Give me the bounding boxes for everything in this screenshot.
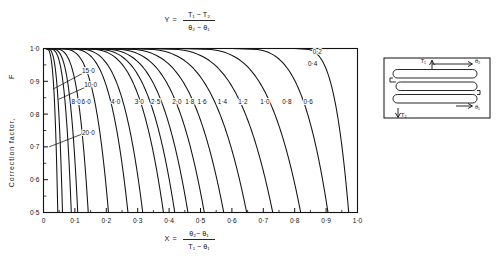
- lmtd-correction-factor-chart: 00·10·20·30·40·50·60·70·80·91·00·50·60·7…: [0, 0, 496, 262]
- title-formula-numerator: T₁ − T₂: [188, 10, 210, 19]
- inset-heat-exchanger: T₁T₂θ₂θ₁: [384, 58, 490, 118]
- hot-outlet-label: T₂: [401, 112, 407, 118]
- hot-inlet-label: T₁: [421, 58, 426, 64]
- y-tick-label: 0·5: [30, 209, 40, 216]
- curve-label: 0·2: [313, 48, 323, 55]
- x-tick-label: 0·8: [290, 217, 300, 224]
- x-tick-label: 0·3: [133, 217, 143, 224]
- leader-line: [53, 71, 86, 89]
- y-tick-label: 0·9: [30, 78, 40, 85]
- curve-label: 2·5: [151, 98, 161, 105]
- curve-label: 1·2: [238, 98, 248, 105]
- curve: [232, 49, 328, 213]
- cold-inlet-label: θ₁: [475, 104, 480, 110]
- curve-label: 2·0: [172, 98, 182, 105]
- x-tick-label: 0·7: [259, 217, 269, 224]
- x-tick-label: 0·9: [321, 217, 331, 224]
- tube-pass: [393, 95, 477, 104]
- curve-label: 1·8: [185, 98, 195, 105]
- y-tick-label: 1·0: [30, 45, 40, 52]
- curve-label: 15·0: [82, 67, 95, 74]
- title-formula: Y=T₁ − T₂θ₂ − θ₁: [165, 10, 215, 32]
- y-axis-symbol: F: [8, 74, 15, 79]
- x-tick-label: 0·6: [227, 217, 237, 224]
- tube-bundle: [390, 70, 480, 104]
- curve: [104, 49, 224, 213]
- y-tick-label: 0·8: [30, 111, 40, 118]
- title-formula-equals: =: [172, 15, 176, 24]
- curve-label: 0·4: [308, 60, 318, 67]
- x-axis-formula-equals: =: [172, 234, 176, 243]
- x-tick-label: 1·0: [353, 217, 363, 224]
- y-axis-title: Correction factor,F: [8, 74, 15, 187]
- curve-label: 0·8: [282, 98, 292, 105]
- x-tick-labels: 00·10·20·30·40·50·60·70·80·91·0: [42, 217, 363, 224]
- x-tick-label: 0·2: [102, 217, 112, 224]
- x-tick-label: 0: [42, 217, 46, 224]
- curve-label: 20·0: [82, 129, 95, 136]
- tube-pass: [393, 70, 477, 79]
- title-formula-denominator: θ₂ − θ₁: [188, 23, 210, 32]
- x-axis-formula-denominator: T₁ − θ₁: [188, 242, 210, 251]
- curve-label: 3·0: [135, 98, 145, 105]
- figure-root: 00·10·20·30·40·50·60·70·80·91·00·50·60·7…: [0, 0, 496, 262]
- curve-label: 6·0: [82, 98, 92, 105]
- curve-label: 8·0: [72, 98, 82, 105]
- title-formula-lhs: Y: [165, 15, 170, 24]
- x-tick-label: 0·4: [164, 217, 174, 224]
- curve-label: 4·0: [111, 98, 121, 105]
- curve-labels: 20·015·010·08·06·04·03·02·52·01·81·61·41…: [72, 48, 323, 136]
- curve-label: 0·6: [304, 98, 314, 105]
- tube-pass: [396, 82, 477, 91]
- x-axis-formula-lhs: X: [165, 234, 170, 243]
- cold-outlet-label: θ₂: [475, 58, 480, 64]
- x-tick-label: 0·5: [196, 217, 206, 224]
- x-tick-label: 0·1: [70, 217, 80, 224]
- curve: [47, 49, 72, 213]
- curve-label: 1·4: [218, 98, 228, 105]
- curve-label: 1·0: [260, 98, 270, 105]
- y-tick-label: 0·6: [30, 176, 40, 183]
- curve: [295, 49, 349, 213]
- y-tick-label: 0·7: [30, 143, 40, 150]
- curve: [45, 49, 62, 213]
- curve-label: 10·0: [84, 81, 97, 88]
- x-axis-formula-numerator: θ₂− θ₁: [189, 229, 209, 238]
- y-tick-labels: 0·50·60·70·80·91·0: [30, 45, 40, 216]
- y-axis-title-text: Correction factor,: [8, 118, 15, 188]
- curve-label: 1·6: [197, 98, 207, 105]
- x-axis-formula: X=θ₂− θ₁T₁ − θ₁: [165, 229, 215, 251]
